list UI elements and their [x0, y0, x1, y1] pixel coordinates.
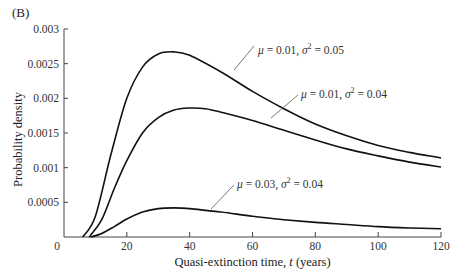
- y-tick-label: 0.0005: [27, 196, 59, 208]
- probability-density-chart: 00.00050.0010.00150.0020.00250.003204060…: [0, 0, 456, 275]
- x-tick-label: 120: [432, 240, 450, 252]
- series-annotation: μ = 0.01, σ2 = 0.05: [257, 42, 344, 57]
- axes: 00.00050.0010.00150.0020.00250.003204060…: [27, 23, 450, 252]
- leader-line: [211, 185, 234, 209]
- leader-line: [234, 46, 254, 70]
- y-axis-label: Probability density: [11, 75, 26, 205]
- series-annotation: μ = 0.03, σ2 = 0.04: [236, 176, 323, 191]
- series-annotation: μ = 0.01, σ2 = 0.04: [300, 86, 387, 101]
- x-tick-label: 40: [184, 240, 196, 252]
- series-curve-1: [83, 52, 441, 237]
- series-curve-3: [91, 208, 441, 237]
- x-tick-label: 60: [247, 240, 259, 252]
- y-tick-label: 0.002: [33, 92, 59, 104]
- x-tick-label: 100: [370, 240, 388, 252]
- annotations: μ = 0.01, σ2 = 0.05μ = 0.01, σ2 = 0.04μ …: [211, 42, 387, 209]
- y-tick-label: 0.001: [33, 162, 59, 174]
- y-tick-label: 0: [54, 240, 60, 252]
- x-tick-label: 20: [121, 240, 133, 252]
- y-tick-label: 0.0015: [27, 127, 59, 139]
- x-axis-label: Quasi-extinction time, t (years): [64, 255, 441, 270]
- y-tick-label: 0.003: [33, 23, 59, 35]
- curves: [83, 52, 441, 237]
- y-tick-label: 0.0025: [27, 58, 59, 70]
- x-tick-label: 80: [310, 240, 322, 252]
